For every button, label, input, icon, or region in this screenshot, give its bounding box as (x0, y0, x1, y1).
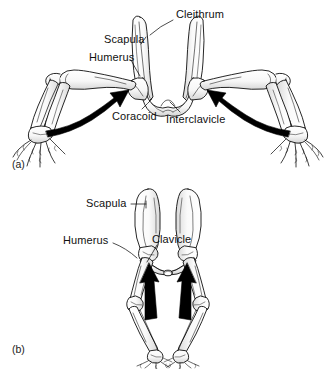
figure-root: Cleithrum Scapula Humerus Coracoid Inter… (0, 0, 336, 369)
label-humerus-a: Humerus (89, 51, 134, 63)
label-humerus-b: Humerus (63, 234, 108, 246)
humerus-leader-b (113, 243, 137, 258)
label-scapula-a: Scapula (104, 33, 144, 45)
scapula-right-b (176, 189, 202, 262)
label-cleithrum: Cleithrum (176, 8, 224, 20)
panel-a-skeleton (13, 16, 323, 167)
panel-label-b: (b) (12, 343, 25, 355)
skeleton-illustration (0, 0, 336, 369)
label-interclavicle: Interclavicle (166, 113, 225, 125)
scapula-left-b (135, 189, 161, 262)
label-coracoid: Coracoid (112, 110, 157, 122)
manus-left-b (137, 350, 172, 369)
label-scapula-b: Scapula (86, 197, 126, 209)
manus-right-b (164, 350, 199, 369)
label-clavicle: Clavicle (152, 233, 191, 245)
interclavicular-node (164, 270, 172, 276)
panel-label-a: (a) (12, 158, 25, 170)
panel-b-skeleton (113, 189, 209, 369)
cleithrum-leader (150, 20, 173, 35)
